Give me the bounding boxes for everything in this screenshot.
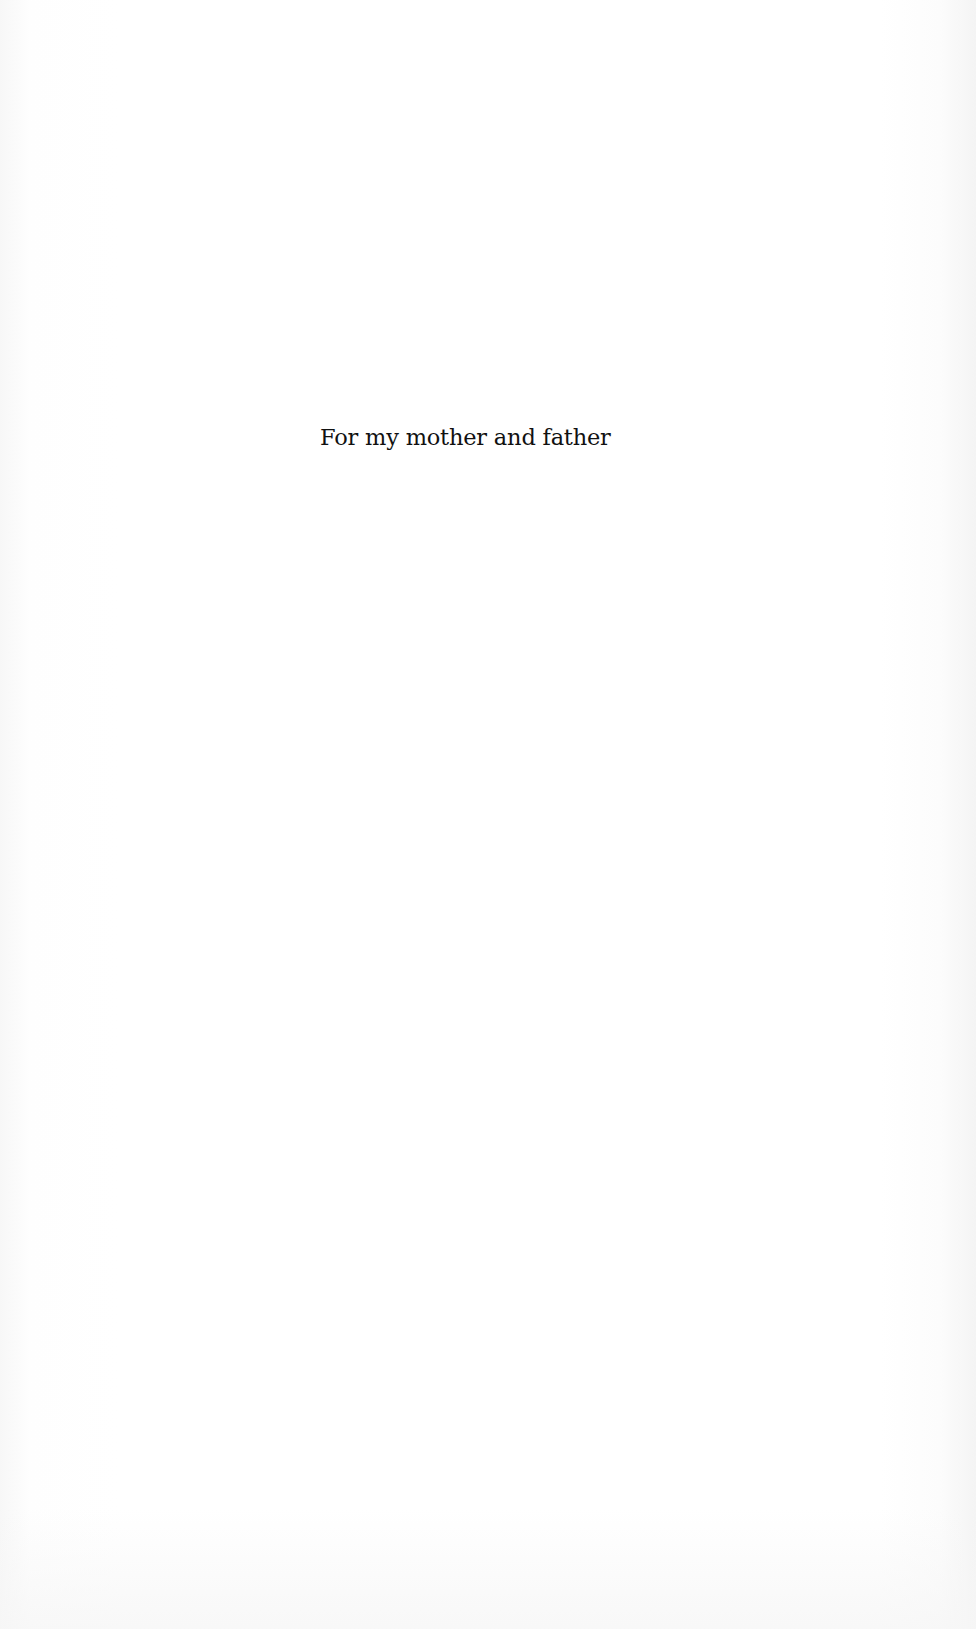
dedication-page: For my mother and father — [0, 0, 976, 1629]
dedication-text: For my mother and father — [320, 426, 611, 449]
